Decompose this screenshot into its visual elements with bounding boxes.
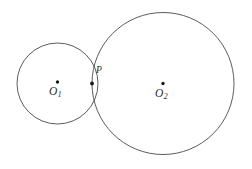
figure-canvas — [0, 0, 252, 169]
label-p: P — [96, 66, 102, 76]
center-dot-o1 — [56, 80, 59, 83]
label-o2-subscript: 2 — [163, 92, 167, 101]
label-o2: O2 — [155, 88, 168, 101]
tangency-dot-p — [90, 82, 94, 86]
geometry-figure: O1 O2 P — [0, 0, 252, 169]
label-o1: O1 — [49, 86, 62, 99]
center-dot-o2 — [161, 82, 164, 85]
label-o1-subscript: 1 — [57, 90, 61, 99]
label-p-letter: P — [96, 65, 102, 75]
